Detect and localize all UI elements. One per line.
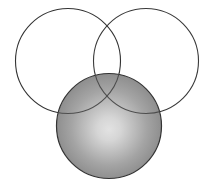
circle-bottom-filled (57, 74, 162, 179)
three-circle-diagram: Three overlapping circles diagram (0, 0, 214, 184)
figure-root: Three overlapping circles diagram (0, 0, 214, 184)
